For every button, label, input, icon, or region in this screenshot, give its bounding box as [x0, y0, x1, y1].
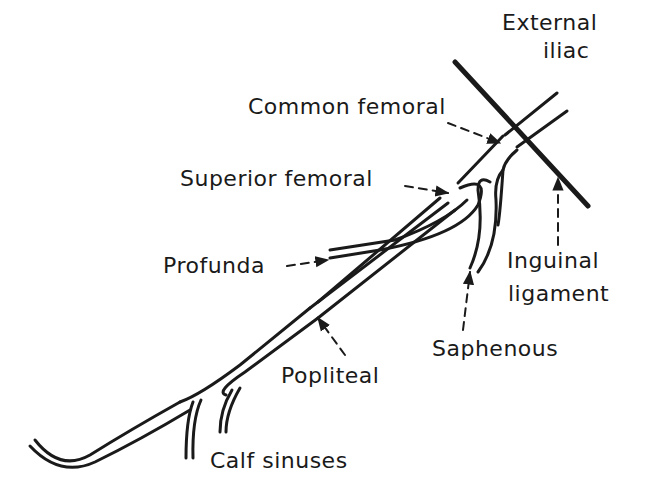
popliteal-lower-vein: [30, 402, 190, 467]
label-inguinal-2: ligament: [508, 283, 609, 305]
label-external-iliac-2: iliac: [543, 40, 589, 62]
profunda-arrow: [287, 260, 328, 266]
label-superior-femoral: Superior femoral: [180, 168, 373, 190]
common-femoral-arrow: [448, 123, 500, 143]
label-popliteal: Popliteal: [281, 365, 379, 387]
label-saphenous: Saphenous: [432, 338, 558, 360]
label-common-femoral: Common femoral: [248, 96, 446, 118]
popliteal-arrow: [318, 318, 345, 355]
label-external-iliac-1: External: [502, 12, 597, 34]
label-inguinal-1: Inguinal: [507, 250, 599, 272]
superior-femoral-arrow: [405, 186, 448, 193]
profunda-vein: [310, 184, 481, 318]
saphenous-arrow: [463, 272, 470, 330]
venous-anatomy-diagram: External iliac Common femoral Superior f…: [0, 0, 645, 480]
label-profunda: Profunda: [163, 255, 265, 277]
external-iliac-vein: [505, 93, 567, 147]
label-calf-sinuses: Calf sinuses: [210, 450, 348, 472]
vessel-drawing: [0, 0, 645, 480]
